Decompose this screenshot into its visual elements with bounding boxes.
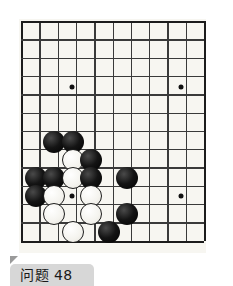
star-point	[70, 194, 75, 199]
white-stone[interactable]	[80, 203, 102, 225]
star-point	[179, 194, 184, 199]
grid-line-horizontal	[21, 94, 204, 95]
grid-line-horizontal	[21, 76, 204, 77]
caption-area: 问题 48	[0, 256, 233, 280]
grid-line-vertical	[204, 21, 206, 241]
black-stone[interactable]	[116, 167, 138, 189]
problem-label: 问题 48	[20, 268, 73, 282]
star-point	[179, 85, 184, 90]
star-point	[70, 85, 75, 90]
black-stone[interactable]	[116, 203, 138, 225]
black-stone[interactable]	[98, 221, 120, 243]
problem-label-box: 问题 48	[10, 264, 94, 286]
corner-triangle-icon	[10, 256, 18, 264]
white-stone[interactable]	[62, 221, 84, 243]
go-board	[0, 0, 233, 256]
white-stone[interactable]	[43, 203, 65, 225]
grid-line-horizontal	[21, 58, 204, 59]
grid-line-horizontal	[21, 39, 204, 40]
grid-line-horizontal	[21, 21, 204, 23]
grid-line-horizontal	[21, 113, 204, 114]
